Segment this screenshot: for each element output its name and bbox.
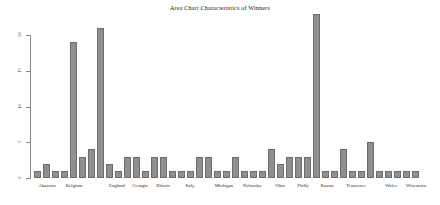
bar (142, 171, 149, 178)
bar-series (30, 35, 434, 178)
bar (34, 171, 41, 178)
bar (412, 171, 419, 178)
bar (205, 157, 212, 178)
x-tick-label: Russia (321, 183, 334, 188)
chart-title: Area Chart Characteristics of Winners (0, 4, 440, 11)
bar (169, 171, 176, 178)
x-tick-label: Michigan (215, 183, 233, 188)
y-tick-label: 10 (17, 99, 22, 113)
bar (61, 171, 68, 178)
x-tick-label: Ohio (275, 183, 285, 188)
bar (241, 171, 248, 178)
bar (178, 171, 185, 178)
x-tick-label: England (109, 183, 125, 188)
x-axis-line (30, 178, 31, 179)
y-tick-mark (26, 178, 30, 179)
bar (124, 157, 131, 178)
bar (214, 171, 221, 178)
x-tick-label: Wales (385, 183, 397, 188)
bar (340, 149, 347, 178)
bar (376, 171, 383, 178)
x-tick-label: Illinois (156, 183, 170, 188)
bar (88, 149, 95, 178)
bar (322, 171, 329, 178)
bar (160, 157, 167, 178)
bar (358, 171, 365, 178)
y-tick-label: 15 (17, 63, 22, 77)
bar (187, 171, 194, 178)
bar (133, 157, 140, 178)
x-tick-label: Philly (297, 183, 308, 188)
x-tick-label: Wisconsin (406, 183, 426, 188)
bar (52, 171, 59, 178)
bar (115, 171, 122, 178)
bar (70, 42, 77, 178)
y-tick-label: 0 (17, 171, 22, 185)
x-tick-label: Nebraska (243, 183, 261, 188)
bar (286, 157, 293, 178)
bar (385, 171, 392, 178)
bar (151, 157, 158, 178)
bar (259, 171, 266, 178)
bar (268, 149, 275, 178)
x-tick-label: Tennessee (346, 183, 366, 188)
chart-figure: Area Chart Characteristics of Winners 05… (0, 0, 440, 205)
bar (79, 157, 86, 178)
bar (313, 14, 320, 178)
y-tick-label: 20 (17, 28, 22, 42)
bar (106, 164, 113, 178)
bar (403, 171, 410, 178)
bar (97, 28, 104, 178)
x-tick-label: Italy (186, 183, 195, 188)
bar (295, 157, 302, 178)
bar (250, 171, 257, 178)
x-tick-label: Belgium (66, 183, 83, 188)
bar (304, 157, 311, 178)
bar (367, 142, 374, 178)
bar (277, 164, 284, 178)
bar (43, 164, 50, 178)
y-tick-label: 5 (17, 135, 22, 149)
bar (331, 171, 338, 178)
x-tick-label: Georgia (132, 183, 147, 188)
bar (196, 157, 203, 178)
bar (394, 171, 401, 178)
x-tick-label: Akavana (38, 183, 55, 188)
bar (223, 171, 230, 178)
bar (232, 157, 239, 178)
bar (349, 171, 356, 178)
